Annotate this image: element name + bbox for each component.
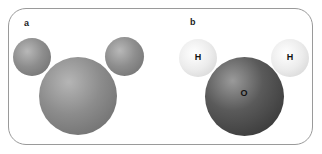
panel-a-small-sphere-left xyxy=(13,38,51,76)
panel-a-label: a xyxy=(24,18,29,28)
hydrogen-label-right: H xyxy=(280,52,300,62)
hydrogen-label-left: H xyxy=(188,52,208,62)
panel-b-label: b xyxy=(190,17,196,27)
oxygen-label: O xyxy=(234,88,254,98)
panel-a-small-sphere-right xyxy=(105,37,144,76)
panel-a-large-sphere xyxy=(39,57,117,135)
